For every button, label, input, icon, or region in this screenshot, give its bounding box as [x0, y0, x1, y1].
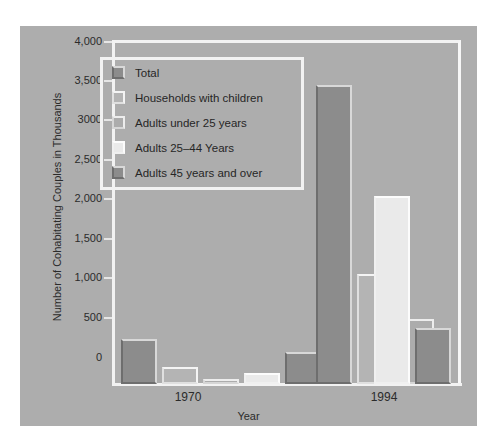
x-group-label-1994: 1994	[344, 390, 424, 404]
bar-1994-total[interactable]	[316, 85, 352, 384]
legend-swatch-children-icon	[112, 91, 125, 104]
x-axis-title: Year	[20, 410, 477, 422]
y-tick-label: 3000	[40, 114, 102, 125]
legend-label: Total	[135, 67, 159, 79]
legend-item-adults-45-plus[interactable]: Adults 45 years and over	[103, 160, 301, 185]
bar-1970-households-with-children[interactable]	[162, 367, 198, 384]
y-tick-label: 1,000	[40, 272, 102, 283]
bar-1970-adults-25-44[interactable]	[244, 373, 280, 384]
y-axis-tick-labels: 4,000 3,500 3000 2,500 2,000 1,500 1,000…	[32, 26, 102, 426]
y-tick-label: 1,500	[40, 233, 102, 244]
legend-swatch-total-icon	[112, 66, 125, 79]
bar-fill	[121, 339, 157, 384]
legend-item-adults-25-44[interactable]: Adults 25–44 Years	[103, 135, 301, 160]
legend-label: Adults 45 years and over	[135, 167, 262, 179]
bar-1994-adults-45-plus[interactable]	[415, 328, 451, 384]
y-tick-label: 2,500	[40, 154, 102, 165]
legend-swatch-under-25-icon	[112, 116, 125, 129]
x-group-label-1970: 1970	[148, 390, 228, 404]
bar-fill	[374, 196, 410, 384]
y-tick-label: 2,000	[40, 193, 102, 204]
legend-item-households-with-children[interactable]: Households with children	[103, 85, 301, 110]
legend-swatch-25-44-icon	[112, 141, 125, 154]
legend-label: Households with children	[135, 92, 263, 104]
y-tick-label: 3,500	[40, 75, 102, 86]
legend-swatch-45-plus-icon	[112, 166, 125, 179]
legend-label: Adults 25–44 Years	[135, 142, 234, 154]
chart-page: Number of Cohabitating Couples in Thousa…	[0, 0, 496, 443]
bar-fill	[203, 379, 239, 384]
bar-fill	[415, 328, 451, 384]
legend-label: Adults under 25 years	[135, 117, 247, 129]
y-tick-label: 0	[40, 352, 102, 363]
legend: Total Households with children Adults un…	[100, 57, 304, 190]
y-tick-label: 4,000	[40, 36, 102, 47]
y-tick-label: 500	[40, 312, 102, 323]
legend-item-adults-under-25[interactable]: Adults under 25 years	[103, 110, 301, 135]
bar-fill	[316, 85, 352, 384]
bar-fill	[244, 373, 280, 384]
figure-panel: Number of Cohabitating Couples in Thousa…	[20, 26, 477, 426]
bar-1994-adults-25-44[interactable]	[374, 196, 410, 384]
bar-fill	[162, 367, 198, 384]
legend-item-total[interactable]: Total	[103, 60, 301, 85]
bar-1970-adults-under-25[interactable]	[203, 379, 239, 384]
bar-1970-total[interactable]	[121, 339, 157, 384]
